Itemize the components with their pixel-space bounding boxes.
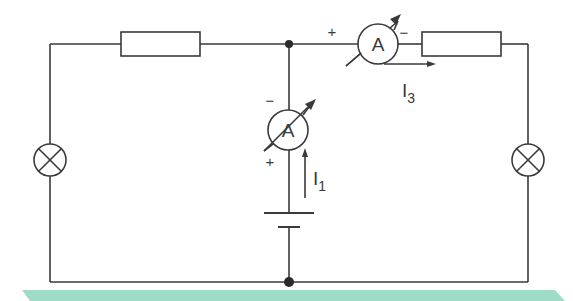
current-label-i3: I3 xyxy=(402,80,415,106)
ammeter-top-plus: + xyxy=(328,23,337,40)
wires xyxy=(50,44,528,282)
resistor-left xyxy=(121,32,200,56)
circuit-diagram: A + − I3 A − + I1 xyxy=(0,0,573,301)
ammeter-middle-plus: + xyxy=(266,153,275,170)
lamp-left xyxy=(34,144,66,176)
battery xyxy=(264,213,314,227)
footer-band xyxy=(22,290,565,301)
resistor-right xyxy=(422,32,501,56)
lamp-right xyxy=(512,144,544,176)
ammeter-middle-minus: − xyxy=(266,92,275,109)
ammeter-middle-letter: A xyxy=(282,120,295,141)
current-arrow-i3 xyxy=(384,61,436,67)
current-label-i1: I1 xyxy=(313,168,326,194)
ammeter-top-minus: − xyxy=(400,24,409,41)
junction-top xyxy=(285,40,293,48)
ammeter-top-letter: A xyxy=(372,34,385,55)
current-arrow-i1 xyxy=(302,148,308,198)
junction-bottom xyxy=(284,277,294,287)
